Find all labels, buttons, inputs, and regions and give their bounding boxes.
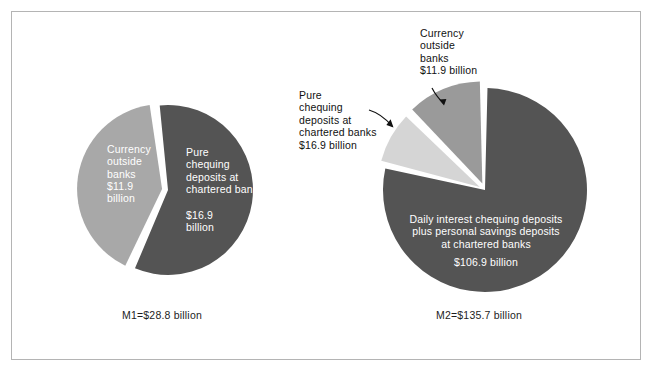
figure-canvas: Currency outside banks $11.9 billion Pur… bbox=[0, 0, 654, 373]
right-label-pure-chequing-amount: $16.9 billion bbox=[299, 139, 357, 151]
right-label-pure-chequing-name: Pure chequing deposits at chartered bank… bbox=[299, 89, 377, 139]
right-label-daily-interest-amount: $106.9 billion bbox=[391, 256, 581, 268]
pie-charts-graphic bbox=[0, 0, 654, 373]
right-label-currency-amount: $11.9 billion bbox=[420, 64, 477, 76]
left-chart-caption: M1=$28.8 billion bbox=[122, 309, 202, 321]
left-label-currency-amount: $11.9 billion bbox=[107, 180, 135, 205]
right-label-currency-name: Currency outside banks bbox=[420, 27, 464, 64]
left-label-currency-name: Currency outside banks bbox=[107, 143, 151, 180]
right-label-daily-interest-name: Daily interest chequing deposits plus pe… bbox=[391, 213, 581, 250]
right-chart-caption: M2=$135.7 billion bbox=[436, 309, 522, 321]
left-label-pure-chequing-name: Pure chequing deposits at chartered bank… bbox=[186, 146, 264, 196]
left-label-pure-chequing-amount: $16.9 billion bbox=[186, 209, 214, 234]
